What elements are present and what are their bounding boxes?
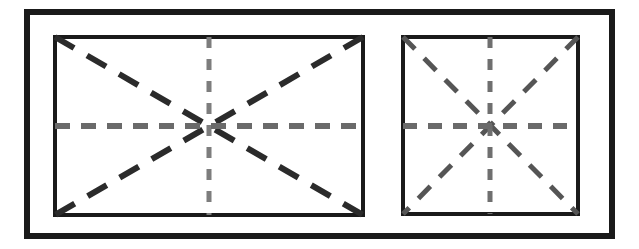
left-panel bbox=[55, 37, 363, 215]
right-panel bbox=[403, 37, 578, 214]
figure-canvas bbox=[0, 0, 639, 249]
figure-root bbox=[0, 0, 639, 249]
